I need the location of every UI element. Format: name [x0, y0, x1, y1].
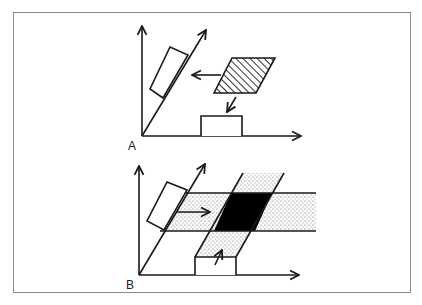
panel-label-a: A — [128, 139, 136, 153]
arrow-down-left — [227, 97, 236, 112]
diagonal-axis — [142, 30, 206, 136]
panel-a: A — [128, 26, 301, 153]
hatched-parallelogram — [214, 58, 275, 93]
panel-b: B — [126, 164, 316, 292]
bottom-rectangle-projection — [201, 116, 242, 136]
projection-diagram: A B — [0, 0, 422, 305]
bottom-rectangle-projection — [195, 257, 236, 275]
panel-label-b: B — [126, 278, 134, 292]
